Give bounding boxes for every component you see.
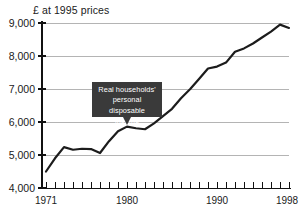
y-tick-label-9000: 9,000 bbox=[9, 17, 35, 29]
y-tick-label-4000: 4,000 bbox=[9, 182, 35, 194]
y-tick-label-7000: 7,000 bbox=[9, 83, 35, 95]
x-tickmarks-group bbox=[47, 182, 290, 188]
series-line-rhpdi bbox=[46, 25, 289, 172]
annotation-line-2: personal disposable bbox=[96, 95, 158, 116]
annotation-line-1: Real households' bbox=[96, 85, 158, 95]
x-tick-label-1971: 1971 bbox=[35, 195, 58, 206]
chart-container: £ at 1995 prices 9,000 8,000 7,000 6,000… bbox=[0, 0, 303, 219]
x-tick-label-1990: 1990 bbox=[206, 195, 229, 206]
y-axis bbox=[38, 21, 46, 189]
y-axis-labels: 9,000 8,000 7,000 6,000 5,000 4,000 bbox=[9, 17, 35, 194]
annotation-arrow-icon bbox=[123, 117, 131, 125]
y-tick-label-8000: 8,000 bbox=[9, 50, 35, 62]
y-tick-label-5000: 5,000 bbox=[9, 149, 35, 161]
x-axis bbox=[42, 182, 291, 189]
x-axis-labels: 1971 1980 1990 1998 bbox=[35, 195, 299, 206]
x-tick-label-1998: 1998 bbox=[276, 195, 299, 206]
x-tick-label-1980: 1980 bbox=[116, 195, 139, 206]
y-tick-label-6000: 6,000 bbox=[9, 116, 35, 128]
annotation-callout: Real households' personal disposable inc… bbox=[92, 82, 162, 117]
